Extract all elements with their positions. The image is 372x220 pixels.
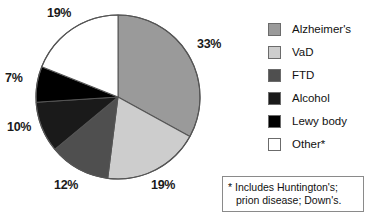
pie-chart-figure: 33% 19% 12% 10% 7% 19% Alzheimer's VaD F…	[0, 0, 372, 220]
legend-item-other: Other*	[268, 133, 372, 156]
legend: Alzheimer's VaD FTD Alcohol Lewy body Ot…	[268, 18, 372, 156]
pie-label-lewy-body: 7%	[5, 72, 22, 85]
pie-label-other: 19%	[47, 7, 71, 20]
pie-chart-svg	[33, 12, 203, 182]
legend-label-other: Other*	[292, 139, 325, 151]
legend-item-lewy-body: Lewy body	[268, 110, 372, 133]
legend-item-alzheimers: Alzheimer's	[268, 18, 372, 41]
legend-label-vad: VaD	[292, 47, 314, 59]
pie-chart-plot-area: 33% 19% 12% 10% 7% 19%	[0, 0, 215, 220]
pie-label-alcohol: 10%	[7, 121, 31, 134]
legend-item-vad: VaD	[268, 41, 372, 64]
legend-swatch-icon-lewy-body	[268, 115, 281, 128]
legend-swatch-icon-vad	[268, 46, 281, 59]
legend-label-alcohol: Alcohol	[292, 93, 330, 105]
footnote-line-2: prion disease; Down's.	[228, 194, 358, 207]
legend-swatch-icon-alzheimers	[268, 23, 281, 36]
pie-label-ftd: 12%	[54, 179, 78, 192]
legend-label-lewy-body: Lewy body	[292, 116, 347, 128]
footnote-line-1: * Includes Huntington's;	[228, 181, 358, 194]
legend-item-alcohol: Alcohol	[268, 87, 372, 110]
pie-slice-group	[36, 15, 200, 179]
pie-label-alzheimers: 33%	[197, 38, 221, 51]
legend-swatch-icon-alcohol	[268, 92, 281, 105]
legend-item-ftd: FTD	[268, 64, 372, 87]
footnote-box: * Includes Huntington's; prion disease; …	[222, 176, 364, 212]
legend-label-ftd: FTD	[292, 70, 314, 82]
pie-label-vad: 19%	[151, 179, 175, 192]
legend-swatch-icon-other	[268, 138, 281, 151]
legend-swatch-icon-ftd	[268, 69, 281, 82]
legend-label-alzheimers: Alzheimer's	[292, 24, 351, 36]
